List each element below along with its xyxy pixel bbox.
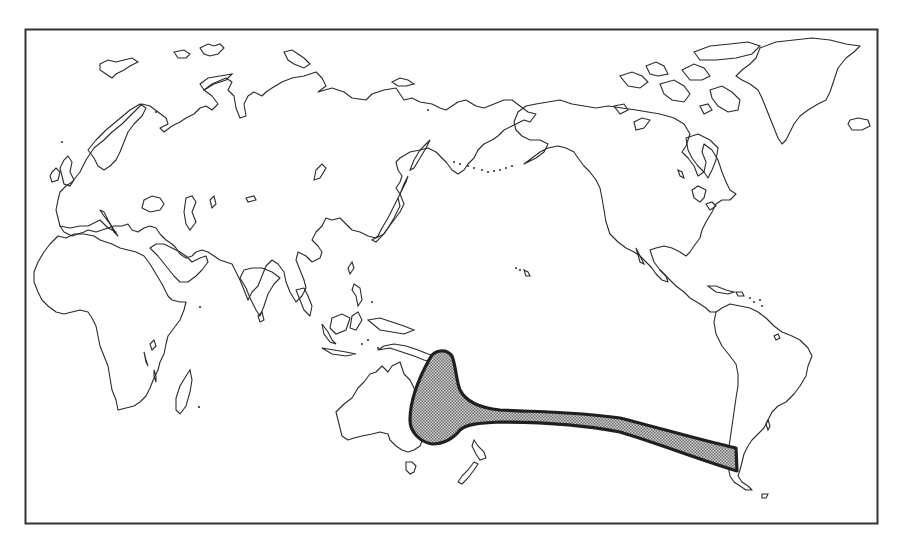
east-asia-islands [322,140,430,356]
world-map [0,0,901,546]
africa-coastline [34,234,201,414]
new-zealand-coastline [458,440,486,484]
eurasia-coastline [50,72,536,322]
greenland-coastline [736,38,870,144]
north-america-coastline [453,100,763,312]
map-border [26,30,878,524]
distribution-range [410,351,737,471]
